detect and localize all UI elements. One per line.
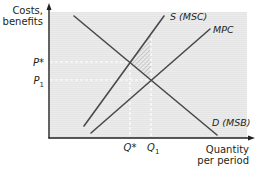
msc-curve-label: S (MSC) <box>170 11 207 22</box>
msb-curve-label: D (MSB) <box>212 117 251 128</box>
q1-subscript: 1 <box>155 148 159 156</box>
p1-label: P1 <box>34 75 45 89</box>
y-axis-label-line1: Costs, <box>12 5 43 16</box>
externality-diagram: Costs, benefits Quantity per period P* P… <box>0 0 258 170</box>
x-axis-label-line2: per period <box>197 155 249 166</box>
mpc-curve-label: MPC <box>213 24 234 35</box>
q-star-label: Q* <box>124 142 137 153</box>
q1-letter: Q <box>147 142 155 153</box>
p1-subscript: 1 <box>40 81 44 89</box>
p-star-label: P* <box>33 57 44 68</box>
x-axis-label-line1: Quantity <box>206 144 249 155</box>
y-axis-arrow-icon <box>47 3 52 10</box>
q1-label: Q1 <box>147 142 159 156</box>
x-axis-arrow-icon <box>248 136 255 141</box>
y-axis-label-line2: benefits <box>3 16 43 27</box>
